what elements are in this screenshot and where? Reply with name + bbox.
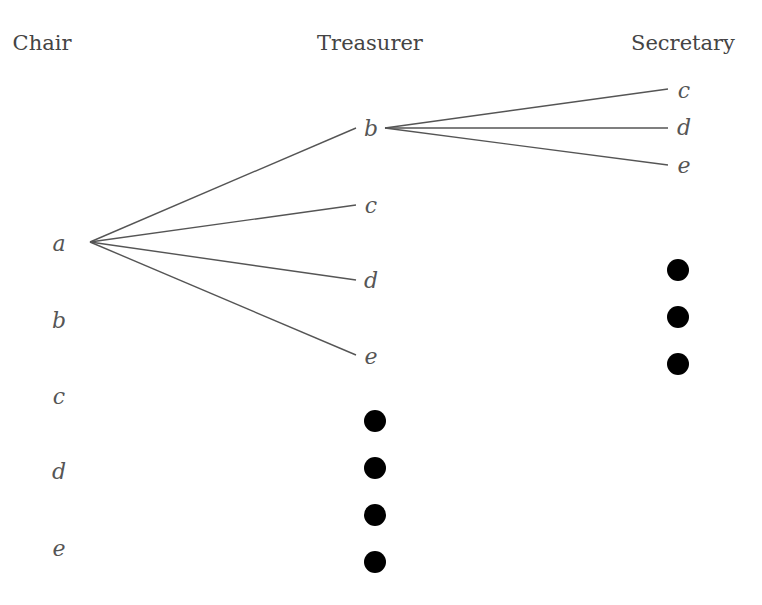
node-secretary-e: e [677, 153, 690, 178]
ellipsis-dot-icon [667, 306, 689, 328]
edge-treasurer-b-to-secretary-c [385, 89, 668, 128]
edge-treasurer-b-to-secretary-e [385, 128, 668, 165]
node-treasurer-b: b [364, 116, 378, 141]
column-header-treasurer: Treasurer [317, 31, 424, 55]
treasurer-ellipsis [364, 410, 386, 573]
node-chair-a: a [52, 231, 65, 256]
tree-diagram: ChairTreasurerSecretary abcdebcdecde [0, 0, 762, 605]
edge-chair-a-to-treasurer-d [90, 242, 356, 280]
edge-chair-a-to-treasurer-b [90, 128, 356, 242]
column-header-chair: Chair [13, 31, 73, 55]
ellipsis-dot-icon [667, 259, 689, 281]
node-chair-b: b [52, 308, 66, 333]
node-secretary-c: c [678, 78, 690, 103]
continuation-dots [364, 259, 689, 573]
edge-chair-a-to-treasurer-c [90, 205, 356, 242]
column-header-secretary: Secretary [631, 31, 735, 55]
node-treasurer-e: e [364, 344, 377, 369]
secretary-ellipsis [667, 259, 689, 375]
column-headers: ChairTreasurerSecretary [13, 31, 736, 55]
tree-nodes: abcdebcdecde [52, 78, 691, 561]
ellipsis-dot-icon [364, 457, 386, 479]
tree-edges [90, 89, 668, 355]
node-chair-d: d [52, 459, 66, 484]
ellipsis-dot-icon [364, 504, 386, 526]
node-treasurer-c: c [365, 193, 377, 218]
edge-chair-a-to-treasurer-e [90, 242, 356, 355]
ellipsis-dot-icon [364, 551, 386, 573]
node-chair-c: c [53, 384, 65, 409]
node-treasurer-d: d [364, 268, 378, 293]
ellipsis-dot-icon [667, 353, 689, 375]
ellipsis-dot-icon [364, 410, 386, 432]
node-secretary-d: d [677, 115, 691, 140]
node-chair-e: e [52, 536, 65, 561]
